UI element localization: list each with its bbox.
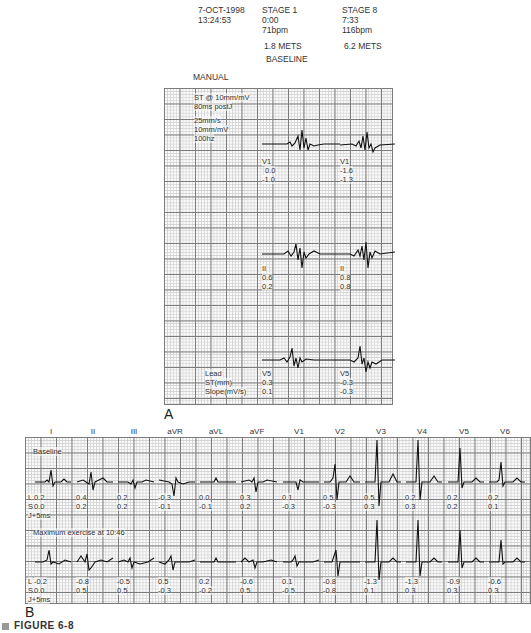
panel-b-baseline-s-value: 0.3 [364, 502, 374, 511]
panel-b-exercise-s-value: -0.2 [199, 586, 212, 595]
panel-b-exercise-s-value: 0.3 [405, 586, 415, 595]
stage-left-elapsed: 0:00 [262, 15, 279, 25]
panel-a-trace-v5-baseline [262, 344, 342, 384]
panel-a-v5-baseline-st: 0.3 [262, 378, 272, 387]
panel-b-baseline-l-value: 0.3 [240, 493, 250, 502]
panel-b-lead-header: V2 [320, 427, 360, 436]
panel-a-v1-exercise-lead: V1 [340, 157, 349, 166]
panel-b-trace-baseline [448, 470, 488, 494]
panel-b-baseline-key-l: L [28, 493, 32, 502]
panel-b-trace-baseline [324, 470, 364, 494]
panel-b-lead-header: aVF [237, 427, 277, 436]
panel-b-exercise-s-value: 0.5 [76, 586, 86, 595]
panel-b-exercise-key-s: S [28, 586, 33, 595]
stage-right-hr: 116bpm [342, 25, 372, 35]
panel-b-lead-header: aVL [196, 427, 236, 436]
panel-b-trace-exercise [241, 550, 281, 574]
panel-a-v5-exercise-lead: V5 [340, 369, 349, 378]
panel-a-row-label-slope: Slope(mV/s) [205, 387, 246, 396]
panel-a-setting-postj: 80ms postJ [194, 102, 232, 111]
panel-b-exercise-l-value: -1.3 [405, 577, 418, 586]
panel-b-baseline-title: Baseline [33, 447, 62, 456]
panel-a-v1-baseline-slope: -1.0 [262, 175, 275, 184]
panel-b-lead-header: aVR [155, 427, 195, 436]
panel-a-setting-st: ST @ 10mm/mV [194, 93, 249, 102]
panel-b-exercise-l-value: -1.3 [364, 577, 377, 586]
panel-b-baseline-l-value: 0.2 [405, 493, 415, 502]
panel-b-baseline-s-value: 0.2 [447, 502, 457, 511]
panel-a-ii-exercise-lead: II [340, 264, 344, 273]
panel-b-trace-baseline [241, 470, 281, 494]
panel-b-lead-header: II [73, 427, 113, 436]
panel-b-baseline-l-value: 0.2 [34, 493, 44, 502]
panel-b-baseline-l-value: 0.2 [447, 493, 457, 502]
panel-b-trace-exercise [448, 550, 488, 574]
panel-b-baseline-l-value: 0.5 [364, 493, 374, 502]
panel-b-exercise-l-value: -0.9 [447, 577, 460, 586]
panel-b-lead-header: V6 [485, 427, 525, 436]
panel-a-v5-baseline-lead: V5 [262, 369, 271, 378]
panel-b-baseline-s-value: 0.2 [240, 502, 250, 511]
panel-b-trace-exercise [324, 550, 364, 574]
panel-b-baseline-s-value: 0.1 [488, 502, 498, 511]
panel-b-baseline-s-value: -0.1 [199, 502, 212, 511]
panel-a-ii-baseline-lead: II [262, 264, 266, 273]
panel-b-exercise-s-value: 0.3 [447, 586, 457, 595]
panel-b-baseline-s-value: -0.3 [282, 502, 295, 511]
panel-b-baseline-s-value: 0.0 [34, 502, 44, 511]
panel-a-trace-v1-baseline [262, 126, 342, 166]
mode-label: MANUAL [193, 72, 228, 82]
panel-b-baseline-l-value: 0.2 [488, 493, 498, 502]
stage-left-label: BASELINE [266, 54, 308, 64]
panel-b-lead-header: III [114, 427, 154, 436]
panel-b-exercise-key-j: J+5ms [28, 595, 50, 604]
panel-b-baseline-l-value: -0.3 [158, 493, 171, 502]
panel-b-baseline-key-j: J+5ms [28, 511, 50, 520]
stage-right-elapsed: 7:33 [342, 15, 359, 25]
panel-a-trace-ii-baseline [262, 238, 342, 278]
report-time: 13:24:53 [198, 15, 231, 25]
panel-a-trace-ii-exercise [340, 238, 395, 278]
panel-a-v5-exercise-slope: -0.3 [340, 387, 353, 396]
panel-a-setting-filter: 100hz [194, 134, 214, 143]
panel-b-exercise-key-l: L [28, 577, 32, 586]
panel-b-trace-baseline [200, 470, 240, 494]
panel-b-baseline-s-value: 0.2 [117, 502, 127, 511]
panel-b-trace-exercise [365, 550, 405, 574]
panel-b-baseline-s-value: 0.2 [76, 502, 86, 511]
panel-b-trace-baseline [283, 470, 323, 494]
panel-b-exercise-s-value: 0.5 [117, 586, 127, 595]
stage-left-hr: 71bpm [262, 25, 288, 35]
panel-b-trace-exercise [118, 550, 158, 574]
figure-caption: FIGURE 6-8 [2, 620, 74, 631]
panel-b-trace-exercise [77, 550, 117, 574]
panel-b-trace-exercise [489, 550, 529, 574]
panel-b-baseline-l-value: 0.4 [76, 493, 86, 502]
panel-b-exercise-l-value: -0.8 [323, 577, 336, 586]
panel-b-exercise-l-value: -0.5 [117, 577, 130, 586]
panel-b-exercise-s-value: 0.5 [240, 586, 250, 595]
panel-b-exercise-s-value: 0.0 [34, 586, 44, 595]
panel-b-lead-header: V5 [444, 427, 484, 436]
stage-right-mets: 6.2 METS [344, 41, 382, 51]
panel-a-setting-gain: 10mm/mV [194, 125, 228, 134]
panel-a-ii-baseline-st: 0.6 [262, 273, 272, 282]
panel-b-trace-exercise [159, 550, 199, 574]
panel-a-row-label-lead: Lead [205, 369, 222, 378]
panel-b-exercise-l-value: -0.2 [34, 577, 47, 586]
panel-a-row-label-st: ST(mm) [205, 378, 232, 387]
panel-b-baseline-l-value: 0.2 [117, 493, 127, 502]
panel-a-v1-baseline-lead: V1 [262, 157, 271, 166]
panel-b-exercise-s-value: -0.5 [282, 586, 295, 595]
stage-right-name: STAGE 8 [342, 5, 377, 15]
panel-b-exercise-l-value: -0.6 [488, 577, 501, 586]
figure-caption-label: FIGURE 6-8 [14, 620, 74, 631]
panel-b-baseline-s-value: -0.3 [323, 502, 336, 511]
panel-a-v5-exercise-st: -0.3 [340, 378, 353, 387]
panel-b-baseline-l-value: 0.0 [199, 493, 209, 502]
panel-b-trace-baseline [365, 470, 405, 494]
panel-b-baseline-key-s: S [28, 502, 33, 511]
panel-b-exercise-l-value: -0.8 [76, 577, 89, 586]
panel-b-lead-header: V4 [402, 427, 442, 436]
panel-b-exercise-l-value: 0.1 [282, 577, 292, 586]
